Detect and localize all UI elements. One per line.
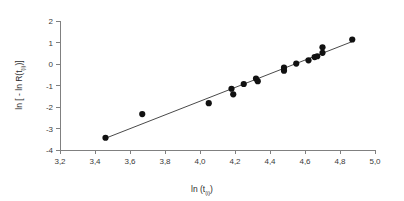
x-axis-ticks [60,150,375,154]
data-point [314,53,320,59]
y-tick-label: -2 [46,103,54,112]
x-tick-label: 4,0 [194,157,206,166]
plot-canvas: 3,23,43,63,84,04,24,44,64,85,0 -4-3-2-10… [0,0,404,201]
y-tick-label: -3 [46,125,54,134]
data-point [228,86,234,92]
data-point [319,44,325,50]
y-axis-title-main: ln [ - ln R(t [14,70,24,110]
data-point [206,100,212,106]
data-point [305,57,311,63]
data-point [139,111,145,117]
y-tick-label: 2 [49,17,54,26]
y-axis-ticks [56,21,60,150]
x-axis-title-tail: ) [210,184,213,194]
x-tick-label: 5,0 [369,157,381,166]
x-tick-label: 3,8 [159,157,171,166]
data-point [102,135,108,141]
x-tick-label: 4,4 [264,157,276,166]
data-point [230,91,236,97]
y-tick-label: -4 [46,146,54,155]
y-axis-title-tail: )] [14,60,24,65]
x-axis-title-main: ln (t [191,184,206,194]
data-points-group [102,36,355,140]
weibull-probability-plot: 3,23,43,63,84,04,24,44,64,85,0 -4-3-2-10… [0,0,404,201]
y-tick-label: 0 [49,60,54,69]
x-axis-tick-labels: 3,23,43,63,84,04,24,44,64,85,0 [54,157,381,166]
data-point [349,36,355,42]
x-tick-label: 4,2 [229,157,241,166]
svg-text:ln [ - ln R(t(i))]: ln [ - ln R(t(i))] [14,60,26,109]
x-axis-title: ln (t(i)) [191,184,213,196]
x-tick-label: 3,4 [89,157,101,166]
axes-group [60,21,375,150]
data-point [241,81,247,87]
x-tick-label: 3,6 [124,157,136,166]
x-tick-label: 3,2 [54,157,66,166]
y-tick-label: 1 [49,39,54,48]
data-point [319,50,325,56]
data-point [281,68,287,74]
svg-text:ln (t(i)): ln (t(i)) [191,184,213,196]
y-axis-title: ln [ - ln R(t(i))] [14,60,26,109]
y-tick-label: -1 [46,82,54,91]
x-tick-label: 4,6 [299,157,311,166]
data-point [255,78,261,84]
y-axis-tick-labels: -4-3-2-1012 [46,17,54,155]
data-point [293,60,299,66]
x-tick-label: 4,8 [334,157,346,166]
